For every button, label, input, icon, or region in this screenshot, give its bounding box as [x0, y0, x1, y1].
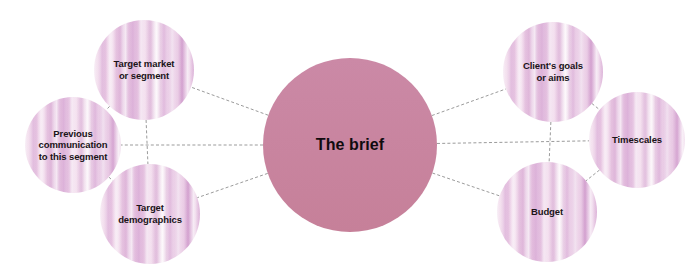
node-target-market-label: Target market or segment — [114, 58, 175, 81]
node-target-demographics-label: Target demographics — [118, 202, 182, 225]
node-the-brief[interactable]: The brief — [263, 58, 437, 232]
connector-hub-to-timescales — [437, 141, 589, 144]
connector-clients-goals-to-budget — [549, 122, 551, 162]
connector-hub-to-budget — [432, 173, 499, 196]
node-budget-label: Budget — [531, 206, 563, 218]
node-previous-communication-label: Previous communication to this segment — [39, 128, 108, 163]
connector-timescales-to-budget — [586, 170, 599, 181]
node-target-demographics[interactable]: Target demographics — [100, 164, 200, 264]
node-budget[interactable]: Budget — [497, 162, 597, 262]
node-timescales-label: Timescales — [612, 134, 662, 146]
node-timescales[interactable]: Timescales — [589, 92, 685, 188]
connector-hub-to-clients-goals — [432, 89, 506, 116]
node-clients-goals[interactable]: Client's goals or aims — [503, 22, 603, 122]
node-previous-communication[interactable]: Previous communication to this segment — [25, 97, 121, 193]
connector-hub-to-target-demographics — [197, 173, 267, 197]
connector-target-market-to-previous-communication — [106, 106, 110, 110]
connector-clients-goals-to-timescales — [592, 103, 600, 109]
node-the-brief-label: The brief — [316, 135, 384, 155]
node-clients-goals-label: Client's goals or aims — [523, 60, 583, 83]
node-target-market[interactable]: Target market or segment — [94, 20, 194, 120]
mind-map-diagram: Target market or segment Previous commun… — [0, 0, 692, 275]
connector-hub-to-target-market — [191, 87, 268, 115]
connector-target-market-to-target-demographics — [146, 120, 148, 164]
